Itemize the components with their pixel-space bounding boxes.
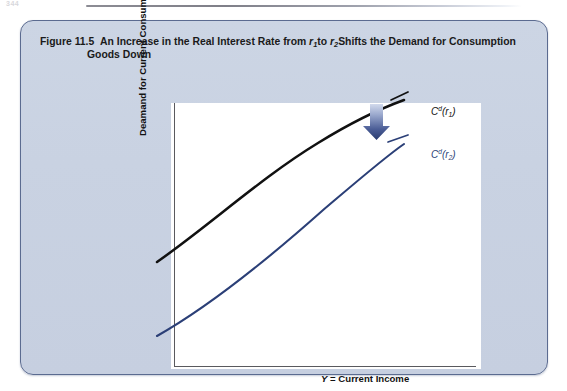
curve-label-cd-r2: Cd(r2) (431, 148, 456, 161)
x-axis-label: Y = Current Income (321, 373, 409, 384)
header-rule-divider (86, 5, 522, 7)
cd-r1-close: ) (452, 106, 455, 117)
curve-label-cd-r1: Cd(r1) (431, 105, 456, 118)
cd-r2-close: ) (452, 149, 455, 160)
caption-text-part1: An Increase in the Real Interest Rate fr… (100, 36, 309, 47)
figure-panel: Figure 11.5 An Increase in the Real Inte… (20, 20, 548, 375)
figure-number: Figure 11.5 (40, 36, 94, 47)
x-axis-label-rest: = Current Income (327, 373, 409, 384)
plot-area (171, 103, 481, 369)
y-axis-label-container: Deamand for Current Consumption Goods (155, 116, 171, 346)
x-axis-label-container: Y = Current Income (171, 368, 481, 388)
page-header: 344 (0, 0, 567, 18)
caption-text-mid: to (317, 36, 330, 47)
cd-r2-arg: (r (442, 149, 449, 160)
y-axis-label: Deamand for Current Consumption Goods (137, 0, 148, 136)
cd-r1-arg: (r (442, 106, 449, 117)
page-number: 344 (6, 0, 19, 7)
caption-text-part2: Shifts the Demand for Consumption (338, 36, 516, 47)
y-axis-line (174, 103, 175, 367)
